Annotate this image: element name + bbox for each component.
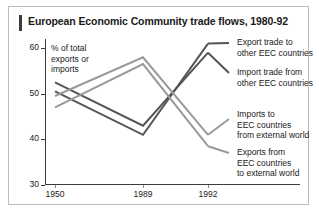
x-tick-label-1950: 1950 — [46, 189, 65, 199]
legend-entry-2: Imports toEEC countriesfrom external wor… — [237, 109, 309, 141]
legend-entry-2-line-1: EEC countries — [237, 120, 309, 131]
legend-leader-3 — [208, 146, 229, 153]
legend-entry-2-line-0: Imports to — [237, 109, 309, 120]
y-tick-label-30: 30 — [30, 179, 39, 189]
chart-figure: European Economic Community trade flows,… — [8, 6, 309, 205]
title-accent-bar — [19, 15, 22, 31]
legend-entry-0-line-0: Export trade to — [237, 37, 313, 48]
series-line-1 — [55, 53, 208, 126]
legend-entry-3-line-1: EEC countries — [237, 158, 299, 169]
page-title: European Economic Community trade flows,… — [28, 15, 288, 28]
y-tick-label-40: 40 — [30, 133, 39, 143]
legend-entry-0: Export trade toother EEC countries — [237, 37, 313, 58]
x-tick-label-1992: 1992 — [199, 189, 218, 199]
legend-entry-1-line-1: other EEC countries — [237, 78, 313, 89]
legend-leader-1 — [208, 53, 229, 73]
chart-title-row: European Economic Community trade flows,… — [19, 15, 300, 33]
legend-entry-3-line-2: to external world — [237, 168, 299, 179]
legend-entry-0-line-1: other EEC countries — [237, 48, 313, 59]
legend-entry-1-line-0: Import trade from — [237, 67, 313, 78]
legend-entry-2-line-2: from external world — [237, 130, 309, 141]
x-tick-label-1989: 1989 — [134, 189, 153, 199]
legend-entry-1: Import trade fromother EEC countries — [237, 67, 313, 88]
y-tick-label-60: 60 — [30, 42, 39, 52]
legend-entry-3: Exports fromEEC countriesto external wor… — [237, 147, 299, 179]
legend-entry-3-line-0: Exports from — [237, 147, 299, 158]
y-tick-label-50: 50 — [30, 88, 39, 98]
legend-connector-lines — [189, 37, 239, 172]
legend-leader-2 — [208, 119, 229, 135]
legend-leader-0 — [208, 43, 229, 44]
